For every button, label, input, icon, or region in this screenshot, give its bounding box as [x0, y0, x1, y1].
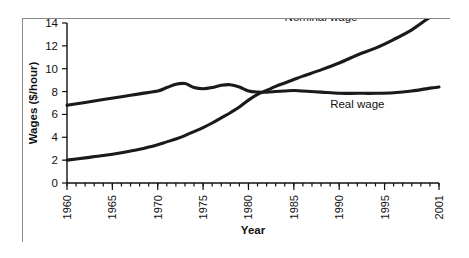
wages-line-chart: 02468101214 1960196519701975198019851990…: [23, 19, 451, 243]
x-tick-label: 1975: [197, 195, 209, 219]
y-tick-label: 12: [45, 40, 58, 52]
y-tick-label: 0: [52, 177, 58, 189]
y-tick-label: 4: [52, 131, 59, 143]
chart-figure-frame: 02468101214 1960196519701975198019851990…: [22, 18, 450, 242]
x-tick-label: 1970: [152, 195, 164, 219]
x-tick-label: 1980: [242, 195, 254, 219]
series-label-real-wage: Real wage: [330, 98, 384, 110]
y-tick-label: 14: [45, 19, 58, 29]
y-tick-label: 10: [45, 63, 58, 75]
x-tick-label: 1990: [333, 195, 345, 219]
series-label-nominal-wage: Nominal wage: [285, 19, 358, 23]
x-tick-label: 1965: [106, 195, 118, 219]
y-tick-label: 2: [52, 154, 58, 166]
x-tick-label: 1995: [379, 195, 391, 219]
x-tick-label: 2001: [433, 195, 445, 219]
x-tick-label: 1985: [288, 195, 300, 219]
y-axis-title: Wages ($/hour): [27, 62, 39, 145]
x-tick-label: 1960: [61, 195, 73, 219]
y-tick-label: 6: [52, 108, 58, 120]
x-axis-title: Year: [241, 224, 266, 236]
y-tick-label: 8: [52, 86, 58, 98]
